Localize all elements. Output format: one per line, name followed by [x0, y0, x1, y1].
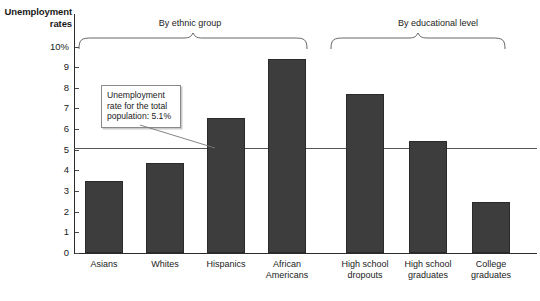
callout-line2: rate for the total	[107, 101, 167, 111]
x-label-high-school-graduates: High school graduates	[396, 259, 460, 281]
bar-college-graduates	[472, 202, 510, 253]
x-label-high-school-dropouts: High school dropouts	[333, 259, 397, 281]
y-tick-3	[75, 191, 79, 192]
y-tick-5	[75, 150, 79, 151]
x-label-high-school-graduates-line2: graduates	[408, 270, 448, 280]
bar-african-americans	[268, 59, 306, 253]
y-tick-label-2: 2	[9, 207, 69, 217]
y-axis-line	[74, 14, 75, 254]
x-label-african-americans-line1: African	[273, 259, 301, 269]
unemployment-rates-bar-chart: Unemployment rates 10% 9 8 7 6 5 4 3 2 1…	[0, 0, 540, 301]
y-tick-1	[75, 232, 79, 233]
y-tick-label-3: 3	[9, 186, 69, 196]
y-tick-0	[75, 253, 79, 254]
x-label-whites: Whites	[135, 259, 195, 270]
y-tick-7	[75, 108, 79, 109]
y-tick-6	[75, 129, 79, 130]
group-header-ethnic: By ethnic group	[130, 18, 250, 29]
x-label-college-graduates: College graduates	[459, 259, 523, 281]
y-axis-title-line1: Unemployment	[5, 6, 72, 17]
y-tick-label-5: 5	[9, 145, 69, 155]
y-tick-8	[75, 88, 79, 89]
total-population-callout: Unemployment rate for the total populati…	[101, 85, 181, 128]
y-tick-label-7: 7	[9, 103, 69, 113]
x-label-college-graduates-line2: graduates	[471, 270, 511, 280]
x-label-high-school-dropouts-line2: dropouts	[347, 270, 382, 280]
y-tick-label-0: 0	[9, 248, 69, 258]
bar-high-school-graduates	[409, 141, 447, 253]
x-axis-line	[74, 253, 537, 254]
y-tick-label-10: 10%	[9, 42, 69, 52]
callout-leader-line	[140, 125, 230, 151]
callout-line1: Unemployment	[107, 90, 165, 100]
y-axis-title-line2: rates	[50, 18, 72, 29]
group-header-education: By educational level	[368, 18, 508, 29]
x-label-hispanics: Hispanics	[196, 259, 256, 270]
y-tick-label-9: 9	[9, 62, 69, 72]
bar-high-school-dropouts	[346, 94, 384, 253]
bar-whites	[146, 163, 184, 253]
x-label-asians: Asians	[74, 259, 134, 270]
x-label-african-americans-line2: Americans	[266, 270, 309, 280]
brace-ethnic-group	[78, 32, 318, 50]
y-tick-9	[75, 67, 79, 68]
y-tick-label-6: 6	[9, 124, 69, 134]
callout-line3: population: 5.1%	[107, 111, 171, 121]
y-axis-title: Unemployment rates	[0, 6, 72, 29]
y-tick-label-1: 1	[9, 227, 69, 237]
y-tick-label-4: 4	[9, 165, 69, 175]
y-tick-label-8: 8	[9, 83, 69, 93]
y-tick-4	[75, 170, 79, 171]
x-label-high-school-dropouts-line1: High school	[341, 259, 388, 269]
y-tick-2	[75, 212, 79, 213]
x-label-college-graduates-line1: College	[476, 259, 507, 269]
brace-educational-level	[330, 32, 530, 50]
x-label-high-school-graduates-line1: High school	[404, 259, 451, 269]
bar-asians	[85, 181, 123, 253]
x-label-african-americans: African Americans	[257, 259, 317, 281]
